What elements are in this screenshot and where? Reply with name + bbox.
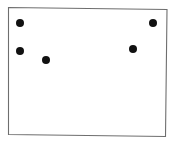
point-northeast[interactable]	[149, 19, 157, 27]
point-west-central[interactable]	[42, 56, 50, 64]
state-outline	[9, 8, 168, 137]
point-northwest-upper[interactable]	[16, 19, 24, 27]
point-east-central[interactable]	[129, 45, 137, 53]
point-northwest-lower[interactable]	[16, 47, 24, 55]
distribution-map	[0, 0, 175, 144]
map-canvas	[0, 0, 175, 144]
